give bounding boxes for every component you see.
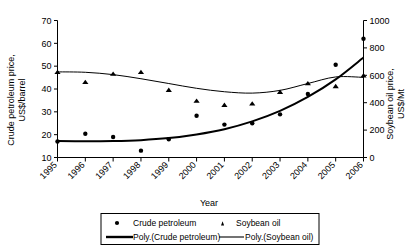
legend-label-crude-petroleum: Crude petroleum — [133, 218, 196, 228]
datapoint-crude-petroleum — [83, 132, 87, 136]
left-tick-label: 10 — [41, 153, 51, 163]
legend-label-poly-soybean-oil: Poly.(Soybean oil) — [245, 232, 314, 242]
right-axis-title-line1: Soybean oil price, — [385, 68, 395, 140]
right-tick-label: 600 — [370, 71, 385, 81]
chart-legend: Crude petroleum Soybean oil Poly.(Crude … — [101, 214, 319, 245]
datapoint-crude-petroleum — [111, 135, 115, 139]
x-tick-label: 2006 — [344, 160, 365, 181]
datapoint-crude-petroleum — [55, 139, 59, 143]
legend-label-soybean-oil: Soybean oil — [236, 218, 281, 228]
price-trend-chart: 1995199619971998199920002001200220032004… — [0, 0, 415, 252]
legend-marker-crude-petroleum — [115, 221, 119, 225]
x-tick-label: 1997 — [93, 160, 114, 181]
x-tick-label: 1999 — [149, 160, 170, 181]
left-tick-label: 60 — [41, 39, 51, 49]
left-tick-label: 70 — [41, 16, 51, 26]
legend-marker-soybean-oil — [221, 221, 224, 225]
x-tick-label: 2005 — [316, 160, 337, 181]
left-axis-tick-labels: 10203040506070 — [41, 16, 51, 163]
datapoint-crude-petroleum — [278, 112, 282, 116]
x-tick-label: 1998 — [121, 160, 142, 181]
x-tick-label: 1996 — [65, 160, 86, 181]
left-tick-label: 50 — [41, 61, 51, 71]
datapoint-crude-petroleum — [333, 63, 337, 67]
legend-label-poly-crude-petroleum: Poly.(Crude petroleum) — [133, 232, 220, 242]
datapoint-soybean-oil — [166, 87, 172, 91]
left-axis-title-line1: Crude petroleum price, — [6, 54, 16, 146]
datapoint-soybean-oil — [333, 84, 339, 88]
right-tick-label: 400 — [370, 98, 385, 108]
x-tick-label: 2004 — [288, 160, 309, 181]
datapoints-crude-petroleum — [55, 37, 365, 153]
x-tick-label: 2003 — [260, 160, 281, 181]
datapoint-crude-petroleum — [167, 137, 171, 141]
trendline-path-soybean-oil — [58, 72, 364, 93]
x-tick-label: 2001 — [205, 160, 226, 181]
x-tick-label: 2000 — [177, 160, 198, 181]
left-tick-label: 40 — [41, 84, 51, 94]
right-tick-label: 200 — [370, 125, 385, 135]
datapoint-crude-petroleum — [361, 37, 365, 41]
datapoint-soybean-oil — [82, 80, 88, 84]
trendline-path-crude-petroleum — [58, 57, 364, 141]
datapoint-soybean-oil — [110, 71, 116, 75]
right-tick-label: 1000 — [370, 16, 390, 26]
trendline-crude-petroleum — [58, 57, 364, 141]
datapoint-soybean-oil — [138, 70, 144, 74]
datapoint-crude-petroleum — [306, 92, 310, 96]
right-axis-title-line2: US$/Mt — [396, 89, 406, 120]
datapoint-crude-petroleum — [139, 148, 143, 152]
datapoint-crude-petroleum — [250, 121, 254, 125]
trendline-soybean-oil — [58, 72, 364, 93]
datapoint-soybean-oil — [221, 103, 227, 107]
right-tick-label: 800 — [370, 43, 385, 53]
x-tick-label: 2002 — [232, 160, 253, 181]
datapoint-soybean-oil — [193, 98, 199, 102]
x-axis-title: Year — [200, 198, 218, 208]
datapoint-crude-petroleum — [222, 122, 226, 126]
datapoints-soybean-oil — [54, 70, 366, 107]
chart-container: 1995199619971998199920002001200220032004… — [0, 0, 415, 252]
x-axis-tick-labels: 1995199619971998199920002001200220032004… — [38, 160, 365, 181]
datapoint-soybean-oil — [249, 101, 255, 105]
right-tick-label: 0 — [370, 153, 375, 163]
x-tick-label: 1995 — [38, 160, 59, 181]
datapoint-crude-petroleum — [194, 114, 198, 118]
left-tick-label: 20 — [41, 130, 51, 140]
left-tick-label: 30 — [41, 107, 51, 117]
left-axis-title-line2: US$/barrel — [17, 78, 27, 121]
